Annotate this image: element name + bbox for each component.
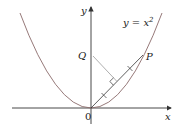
perpendicular-QM: [93, 56, 117, 82]
y-axis-label: y: [80, 5, 87, 16]
point-P-label: P: [145, 51, 153, 62]
right-angle-mark: [110, 78, 114, 85]
x-axis-label: x: [165, 111, 171, 122]
tick-mark: [102, 93, 107, 98]
point-Q-label: Q: [78, 50, 86, 61]
parabola-diagram: y = x2 y x 0 P Q: [0, 0, 177, 131]
curve-label: y = x2: [122, 16, 154, 28]
origin-label: 0: [85, 111, 91, 122]
